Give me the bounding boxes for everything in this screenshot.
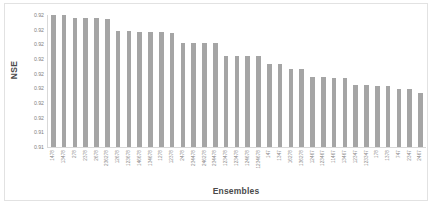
y-tick-label: 0.92 [18,41,44,47]
bar-slot [318,15,329,147]
y-tick-label: 0.92 [18,27,44,33]
bar [116,31,121,147]
x-tick-slot: 1378 [382,150,393,190]
bar [191,43,196,147]
bar [321,77,326,147]
bar [213,43,218,147]
bar-slot [145,15,156,147]
bar [386,86,391,148]
bar-series [48,15,426,147]
bar-slot [394,15,405,147]
bar-slot [113,15,124,147]
x-tick-slot: 178 [371,150,382,190]
x-tick-slot: 13467 [339,150,350,190]
bar-slot [232,15,243,147]
bar [267,64,272,147]
bar-slot [383,15,394,147]
bar [94,18,99,147]
x-tick-slot: 236278 [101,150,112,190]
x-tick-slot: 146678 [133,150,144,190]
x-tick-label: 123467 [320,150,325,166]
bar [245,56,250,147]
x-tick-label: 124678 [244,150,249,166]
x-tick-slot: 136278 [295,150,306,190]
x-tick-label: 123678 [125,150,130,166]
bar [127,31,132,147]
y-tick-label: 0.91 [18,129,44,135]
bar-slot [91,15,102,147]
bar-slot [361,15,372,147]
bar [332,78,337,147]
bar-slot [134,15,145,147]
bar-slot [253,15,264,147]
bar-slot [167,15,178,147]
plot-area [47,15,426,148]
x-tick-slot: 123467 [317,150,328,190]
bar [148,32,153,147]
x-tick-label: 1278 [158,150,163,161]
x-tick-label: 278 [71,150,76,158]
x-tick-slot: 2678 [90,150,101,190]
x-tick-slot: 2467 [414,150,425,190]
x-tick-slot: 234478 [187,150,198,190]
bar [407,89,412,147]
x-tick-label: 123347 [363,150,368,166]
x-tick-slot: 12467 [306,150,317,190]
x-tick-label: 1378 [385,150,390,161]
x-tick-slot: 2478 [177,150,188,190]
bar-slot [48,15,59,147]
bar-slot [264,15,275,147]
x-tick-slot: 2347 [403,150,414,190]
x-tick-label: 1234678 [255,150,260,169]
x-tick-label: 147 [266,150,271,158]
x-tick-slot: 124678 [241,150,252,190]
x-tick-slot: 2378 [79,150,90,190]
x-tick-slot: 246278 [198,150,209,190]
x-tick-label: 146678 [136,150,141,166]
bar [62,15,67,147]
bar-slot [188,15,199,147]
x-tick-label: 123478 [223,150,228,166]
bar-slot [350,15,361,147]
x-tick-slot: 123347 [360,150,371,190]
x-tick-label: 234478 [212,150,217,166]
x-tick-slot: 747 [393,150,404,190]
bar [256,56,261,147]
x-tick-slot: 234478 [209,150,220,190]
bar [83,18,88,147]
y-tick-label: 0.92 [18,71,44,77]
x-tick-slot: 147 [263,150,274,190]
x-tick-slot: 278 [69,150,80,190]
bar-slot [59,15,70,147]
x-tick-slot: 12678 [112,150,123,190]
bar-slot [102,15,113,147]
y-tick-label: 0.92 [18,12,44,18]
x-tick-label: 13478 [61,150,66,163]
bar [299,69,304,147]
x-tick-label: 1347 [277,150,282,161]
x-tick-label: 123478 [233,150,238,166]
bar-slot [156,15,167,147]
x-tick-label: 2678 [93,150,98,161]
x-tick-slot: 1234678 [252,150,263,190]
x-tick-label: 12678 [115,150,120,163]
bar [73,18,78,147]
bar [289,69,294,147]
x-tick-label: 134678 [147,150,152,166]
x-tick-slot: 123478 [231,150,242,190]
bar [159,32,164,147]
x-tick-label: 11467 [331,150,336,163]
bar-slot [340,15,351,147]
bar [397,89,402,147]
chart-figure: NSE 0.920.920.920.920.920.920.920.920.91… [0,0,435,213]
x-tick-label: 13467 [341,150,346,163]
x-tick-slot: 123678 [123,150,134,190]
bar-slot [286,15,297,147]
x-tick-label: 2478 [179,150,184,161]
bar [353,85,358,147]
bar [375,86,380,148]
x-tick-label: 12378 [169,150,174,163]
bar [105,19,110,147]
x-tick-label: 246278 [201,150,206,166]
y-tick-label: 0.92 [18,115,44,121]
